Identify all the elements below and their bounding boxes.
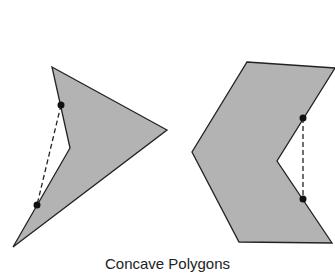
endpoint-dot — [300, 196, 307, 203]
endpoint-dot — [58, 102, 65, 109]
polygon-right — [192, 62, 335, 243]
polygon-left — [13, 67, 167, 247]
figure-caption: Concave Polygons — [0, 255, 335, 272]
concave-polygon-right — [192, 62, 335, 243]
endpoint-dot — [300, 115, 307, 122]
endpoint-dot — [34, 202, 41, 209]
concave-polygon-left — [13, 67, 167, 247]
diagram-canvas — [0, 0, 335, 280]
